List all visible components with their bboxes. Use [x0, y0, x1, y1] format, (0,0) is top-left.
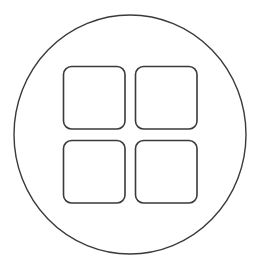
tile-bottom-left: [64, 141, 126, 204]
circle-outline: [14, 15, 246, 254]
icon-canvas: [0, 0, 259, 264]
tile-top-left: [64, 67, 126, 130]
tile-bottom-right: [136, 141, 198, 204]
grid-tiles: [64, 67, 198, 204]
tile-top-right: [136, 67, 198, 130]
grid-apps-icon[interactable]: [0, 0, 259, 264]
